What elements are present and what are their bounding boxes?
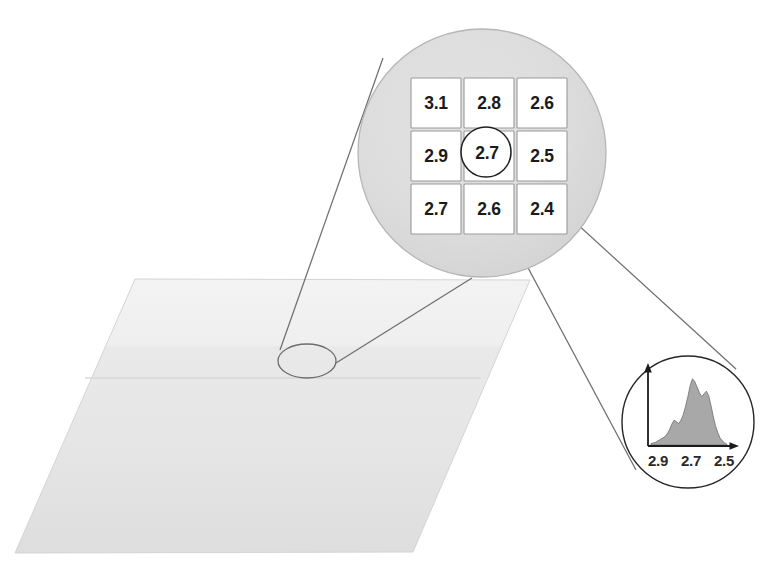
magnified-neighbourhood: 3.1 2.8 2.6 2.9 2.7 (358, 29, 606, 277)
surface-plane (15, 279, 530, 553)
grid-cell: 2.9 (411, 131, 461, 181)
grid-cell-value: 2.7 (424, 199, 448, 219)
grid-cell: 2.8 (464, 78, 514, 128)
grid-cell: 2.6 (464, 184, 514, 234)
grid-cell-value: 3.1 (424, 93, 448, 113)
grid-cell-value: 2.4 (530, 199, 554, 219)
value-histogram: 2.9 2.7 2.5 (622, 356, 754, 488)
grid-cell-value: 2.8 (477, 93, 501, 113)
focus-pixel-circle: 2.7 (461, 127, 511, 177)
grid-cell: 2.4 (517, 184, 567, 234)
grid-cell-value: 2.9 (424, 146, 448, 166)
figure-canvas: 3.1 2.8 2.6 2.9 2.7 (0, 0, 770, 572)
histogram-tick-label: 2.5 (714, 452, 734, 469)
focus-pixel-value: 2.7 (475, 143, 499, 163)
grid-cell-value: 2.6 (477, 199, 501, 219)
histogram-tick-label: 2.9 (648, 452, 668, 469)
diagram-svg: 3.1 2.8 2.6 2.9 2.7 (0, 0, 770, 572)
grid-cell: 3.1 (411, 78, 461, 128)
surface-plane-group (15, 279, 530, 553)
grid-cell: 2.6 (517, 78, 567, 128)
grid-cell: 2.7 (411, 184, 461, 234)
histogram-tick-label: 2.7 (681, 452, 701, 469)
grid-cell-value: 2.5 (530, 146, 554, 166)
grid-cell-value: 2.6 (530, 93, 554, 113)
grid-cell: 2.5 (517, 131, 567, 181)
